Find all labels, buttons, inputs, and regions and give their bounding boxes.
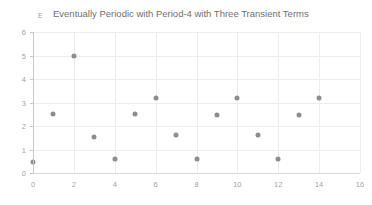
- x-axis-tick-label: 4: [105, 180, 125, 189]
- y-axis-tick-mark: [30, 126, 34, 127]
- y-axis-tick-label: 5: [12, 51, 26, 60]
- x-axis-tick-label: 0: [23, 180, 43, 189]
- x-axis-tick-label: 2: [64, 180, 84, 189]
- x-axis-tick-label: 14: [309, 180, 329, 189]
- y-axis-tick-mark: [30, 79, 34, 80]
- y-axis-tick-label: 0: [12, 169, 26, 178]
- x-axis-tick-label: 6: [146, 180, 166, 189]
- y-axis-tick-mark: [30, 32, 34, 33]
- y-axis-tick-mark: [30, 103, 34, 104]
- x-axis-tick-label: 10: [227, 180, 247, 189]
- axis-labels-layer: 01234560246810121416: [0, 0, 372, 205]
- x-axis-tick-label: 12: [268, 180, 288, 189]
- x-axis-tick-label: 16: [350, 180, 370, 189]
- y-axis-tick-label: 4: [12, 75, 26, 84]
- y-axis-tick-label: 1: [12, 145, 26, 154]
- y-axis-tick-label: 3: [12, 98, 26, 107]
- y-axis-tick-mark: [30, 173, 34, 174]
- chart-container: E Eventually Periodic with Period-4 with…: [0, 0, 372, 205]
- y-axis-tick-mark: [30, 56, 34, 57]
- y-axis-tick-label: 2: [12, 122, 26, 131]
- y-axis-tick-label: 6: [12, 28, 26, 37]
- y-axis-tick-mark: [30, 150, 34, 151]
- x-axis-tick-label: 8: [187, 180, 207, 189]
